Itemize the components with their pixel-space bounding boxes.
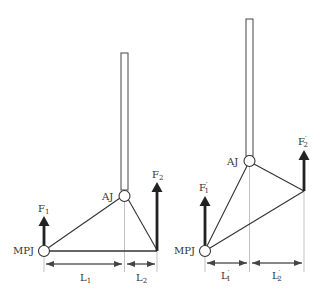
right-label-mpj: MPJ (174, 245, 195, 256)
left-force-1-arrowhead-icon (39, 216, 50, 226)
left-joint-mpj-icon (39, 246, 50, 257)
right-joint-aj-icon (244, 156, 255, 167)
right-linkage: AJ MPJ F′1 F′2 L′1 L′2 (174, 19, 310, 283)
right-label-l1: L′1 (221, 269, 231, 283)
left-label-l2: L2 (136, 272, 147, 285)
left-label-aj: AJ (101, 191, 113, 202)
right-force-1-arrowhead-icon (200, 196, 211, 206)
right-label-f1: F′1 (199, 181, 209, 195)
left-link-mpj-aj (48, 198, 120, 248)
lever-diagram: AJ MPJ F1 F2 L1 L2 AJ MPJ F′1 F′2 L′1 L′… (0, 0, 322, 292)
right-link-aj-end (254, 164, 304, 191)
right-link-mpj-aj (207, 166, 247, 246)
left-label-l1: L1 (80, 272, 91, 285)
left-linkage: AJ MPJ F1 F2 L1 L2 (13, 53, 163, 285)
right-link-base (210, 191, 304, 248)
right-label-l2: L′2 (272, 269, 282, 283)
right-label-aj: AJ (226, 156, 238, 167)
left-label-mpj: MPJ (13, 245, 34, 256)
left-tower (121, 53, 128, 190)
left-force-2-arrowhead-icon (152, 182, 163, 192)
right-joint-mpj-icon (200, 246, 211, 257)
right-tower (246, 19, 253, 156)
right-force-2-arrowhead-icon (299, 150, 310, 160)
left-label-f1: F1 (38, 203, 49, 216)
left-joint-aj-icon (119, 191, 130, 202)
left-label-f2: F2 (152, 169, 163, 182)
right-label-f2: F′2 (298, 135, 308, 149)
left-link-aj-end (128, 199, 157, 250)
